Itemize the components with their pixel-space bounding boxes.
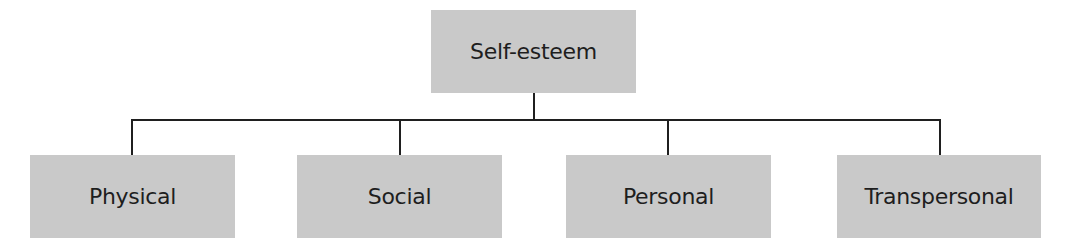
connector-transpersonal	[939, 119, 941, 155]
node-label: Self-esteem	[470, 39, 597, 64]
node-label: Physical	[89, 184, 176, 209]
root-node-self-esteem: Self-esteem	[431, 10, 636, 93]
node-label: Personal	[623, 184, 714, 209]
child-node-personal: Personal	[566, 155, 771, 238]
connector-social	[399, 119, 401, 155]
root-connector-vertical	[533, 93, 535, 121]
connector-physical	[131, 119, 133, 155]
child-node-transpersonal: Transpersonal	[837, 155, 1041, 238]
connector-personal	[667, 119, 669, 155]
node-label: Social	[368, 184, 431, 209]
child-node-physical: Physical	[30, 155, 235, 238]
child-node-social: Social	[297, 155, 502, 238]
node-label: Transpersonal	[864, 184, 1013, 209]
horizontal-connector	[131, 119, 941, 121]
